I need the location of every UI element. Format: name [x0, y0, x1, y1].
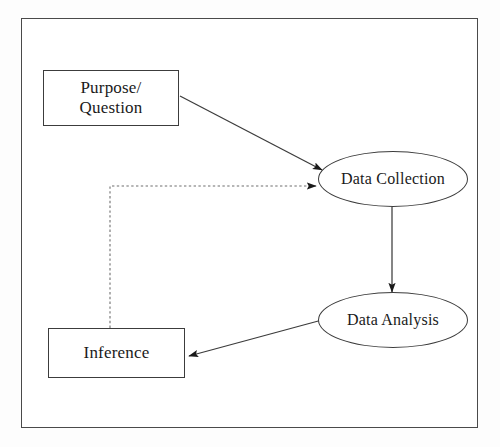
- node-data-analysis[interactable]: Data Analysis: [318, 292, 468, 348]
- diagram-canvas: Purpose/ Question Data Collection Data A…: [0, 0, 500, 447]
- node-data-collection-label: Data Collection: [341, 170, 445, 189]
- node-inference-label: Inference: [84, 343, 150, 363]
- node-data-collection[interactable]: Data Collection: [318, 151, 468, 207]
- node-data-analysis-label: Data Analysis: [347, 311, 439, 330]
- node-purpose-question[interactable]: Purpose/ Question: [43, 70, 179, 126]
- node-inference[interactable]: Inference: [48, 328, 185, 378]
- node-purpose-question-label: Purpose/ Question: [80, 78, 143, 118]
